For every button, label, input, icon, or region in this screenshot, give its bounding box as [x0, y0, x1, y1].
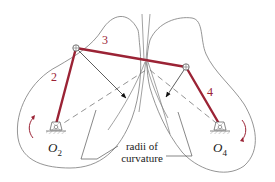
ground-pivot-o4-label: O4 [213, 141, 227, 158]
radii-of-curvature-line1: radii of [116, 140, 168, 152]
ground-pivot-o2 [46, 122, 66, 134]
radius-arc-1 [108, 62, 145, 130]
rotation-arrow-o2 [29, 118, 33, 138]
radii-of-curvature-label: radii of curvature [116, 140, 168, 164]
tangent-line-1 [142, 14, 144, 60]
leader-line-left [81, 110, 118, 159]
link-2-label: 2 [51, 71, 57, 83]
radius-arc-2 [148, 62, 170, 134]
link-2 [55, 48, 76, 128]
rotation-arrow-o4 [242, 120, 246, 140]
radius-arrow-right [166, 67, 186, 97]
tangent-line-2 [146, 14, 150, 60]
link-4 [186, 67, 221, 127]
dashed-line-left [56, 70, 146, 128]
ground-pivot-o2-label: O2 [48, 141, 62, 158]
link-3-label: 3 [102, 34, 108, 46]
link-4-label: 4 [207, 86, 213, 98]
pin-joint-a [73, 45, 79, 51]
radii-of-curvature-line2: curvature [116, 152, 168, 164]
ground-pivot-o4 [210, 122, 230, 134]
pin-joint-b [183, 64, 189, 70]
